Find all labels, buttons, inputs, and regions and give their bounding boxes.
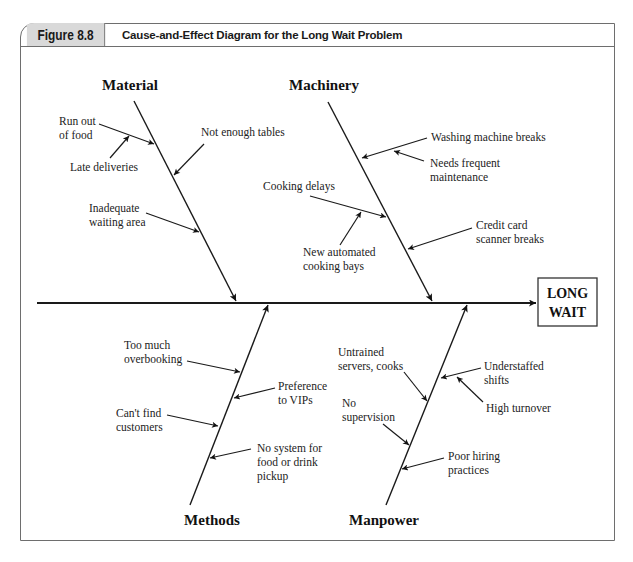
fishbone-diagram: LONG WAIT Material Run outof food Late d…	[0, 0, 633, 562]
arrow-new-automated-cooking-bays	[340, 212, 361, 245]
cause-poor-hiring-practices: Poor hiringpractices	[448, 450, 500, 477]
arrow-too-much-overbooking	[187, 361, 240, 372]
cause-run-out-of-food: Run outof food	[59, 115, 97, 141]
cause-understaffed-shifts: Understaffedshifts	[484, 360, 544, 386]
arrow-untrained-servers-cooks	[404, 372, 427, 401]
category-label-methods: Methods	[184, 512, 240, 528]
cause-cooking-delays: Cooking delays	[263, 180, 335, 193]
arrow-preference-to-vips	[234, 388, 275, 398]
effect-line-2: WAIT	[549, 305, 587, 320]
arrow-needs-frequent-maintenance	[394, 151, 424, 161]
arrow-understaffed-shifts	[441, 368, 481, 378]
cause-untrained-servers-cooks: Untrainedservers, cooks	[338, 346, 404, 373]
cause-preference-to-vips: Preferenceto VIPs	[278, 380, 327, 406]
arrow-late-deliveries	[110, 136, 129, 158]
arrow-high-turnover	[457, 377, 483, 402]
category-label-machinery: Machinery	[289, 77, 359, 93]
cause-late-deliveries: Late deliveries	[70, 161, 139, 173]
cause-needs-frequent-maintenance: Needs frequentmaintenance	[430, 157, 501, 183]
arrow-run-out-of-food	[99, 124, 154, 144]
arrow-poor-hiring-practices	[402, 458, 444, 469]
arrow-no-system-for-pickup	[210, 449, 251, 458]
cause-new-automated-cooking-bays: New automatedcooking bays	[303, 246, 376, 273]
arrow-cant-find-customers	[167, 415, 218, 426]
category-manpower: Manpower Untrainedservers, cooks Underst…	[338, 305, 551, 528]
effect-line-1: LONG	[547, 286, 588, 301]
arrow-not-enough-tables	[174, 144, 204, 175]
cause-too-much-overbooking: Too muchoverbooking	[124, 339, 182, 366]
arrow-no-supervision	[383, 424, 409, 445]
arrow-cooking-delays	[310, 196, 386, 217]
cause-inadequate-waiting-area: Inadequatewaiting area	[89, 202, 146, 229]
cause-credit-card-scanner-breaks: Credit cardscanner breaks	[476, 219, 545, 245]
effect-box: LONG WAIT	[538, 278, 597, 326]
cause-cant-find-customers: Can't findcustomers	[116, 407, 163, 433]
category-methods: Methods Too muchoverbooking Preferenceto…	[116, 305, 327, 528]
category-label-material: Material	[102, 77, 158, 93]
cause-washing-machine-breaks: Washing machine breaks	[431, 131, 546, 144]
category-machinery: Machinery Washing machine breaks Needs f…	[263, 77, 546, 301]
arrow-washing-machine-breaks	[362, 138, 427, 158]
cause-no-supervision: Nosupervision	[342, 397, 395, 424]
cause-not-enough-tables: Not enough tables	[201, 126, 285, 139]
arrow-credit-card-scanner-breaks	[408, 228, 472, 249]
cause-high-turnover: High turnover	[486, 402, 551, 415]
category-label-manpower: Manpower	[349, 512, 419, 528]
arrow-inadequate-waiting-area	[146, 213, 199, 232]
cause-no-system-for-pickup: No system forfood or drinkpickup	[257, 442, 322, 483]
category-material: Material Run outof food Late deliveries …	[59, 77, 285, 301]
